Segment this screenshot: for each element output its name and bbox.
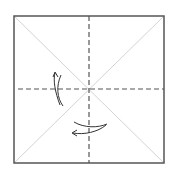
origami-diagram <box>0 0 173 173</box>
